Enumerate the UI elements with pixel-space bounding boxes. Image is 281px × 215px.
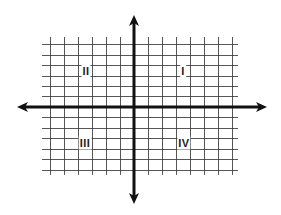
quadrant-label-iv: IV [177,137,190,150]
quadrant-label-i: I [180,65,186,78]
coordinate-plane [0,0,281,215]
quadrant-label-ii: II [81,65,90,78]
quadrant-label-iii: III [79,137,92,150]
axes [17,15,267,204]
